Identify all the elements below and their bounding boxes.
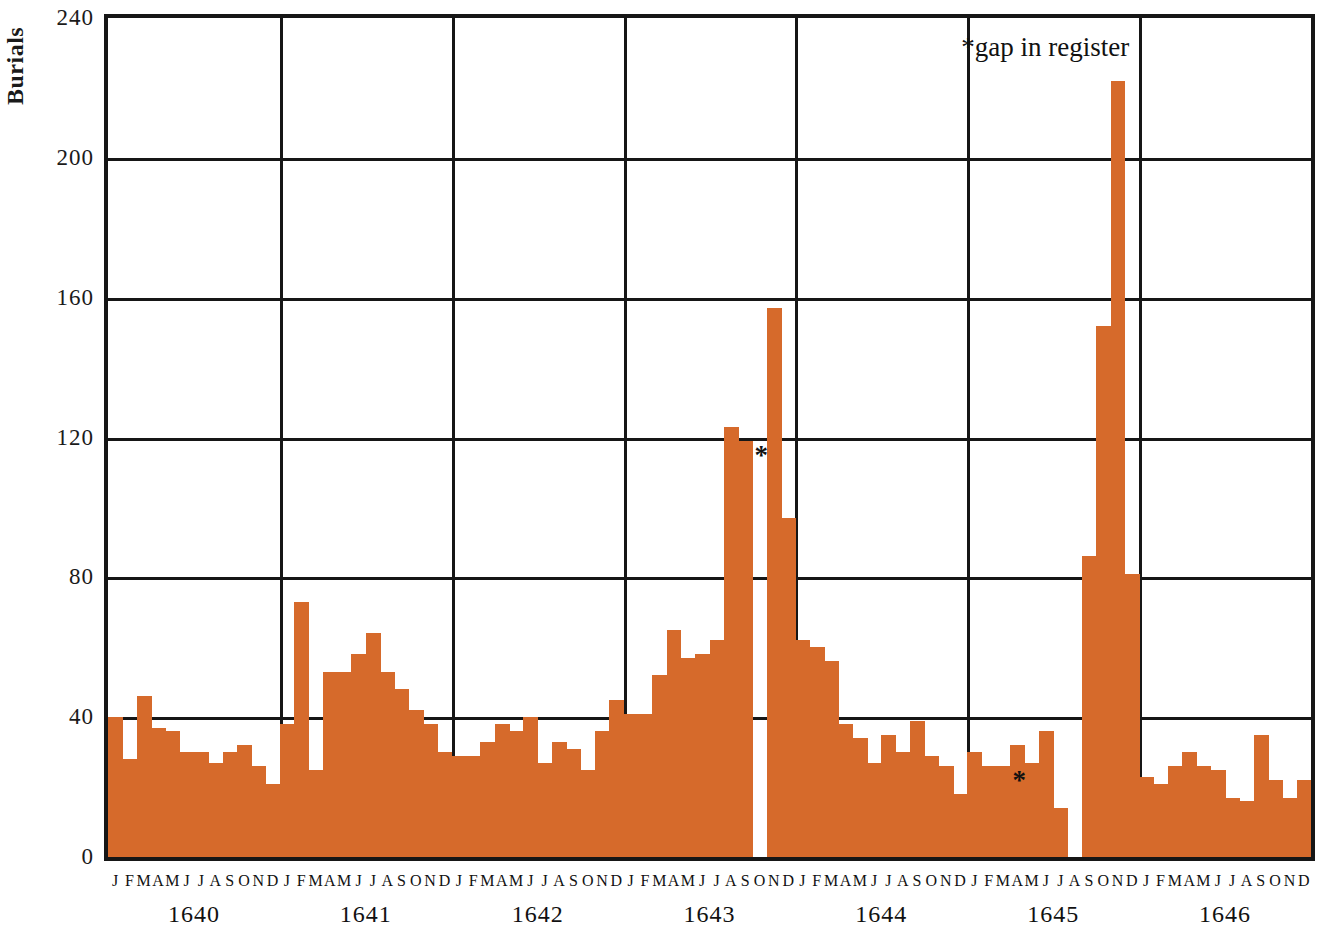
bar xyxy=(480,742,495,857)
bar xyxy=(1010,745,1025,857)
bar xyxy=(452,756,467,857)
bar xyxy=(423,724,438,857)
bar xyxy=(108,717,123,857)
bar xyxy=(1053,808,1068,857)
bar xyxy=(1268,780,1283,857)
year-tick-label: 1645 xyxy=(993,901,1113,928)
bar xyxy=(695,654,710,857)
bar xyxy=(194,752,209,857)
bar xyxy=(1254,735,1269,857)
bar xyxy=(509,731,524,857)
gap-marker-asterisk: * xyxy=(1012,767,1026,794)
bar xyxy=(380,672,395,857)
x-axis-year-labels: 1640164116421643164416451646 xyxy=(104,901,1315,929)
year-tick-label: 1641 xyxy=(306,901,426,928)
bar xyxy=(881,735,896,857)
bar xyxy=(566,749,581,857)
bar xyxy=(710,640,725,857)
year-tick-label: 1646 xyxy=(1165,901,1285,928)
bar xyxy=(294,602,309,857)
bar xyxy=(137,696,152,857)
y-axis-tick-label: 160 xyxy=(10,285,94,311)
bar xyxy=(652,675,667,857)
bar xyxy=(538,763,553,857)
bar xyxy=(1139,777,1154,857)
bar xyxy=(953,794,968,857)
gridline-horizontal xyxy=(108,438,1311,441)
bar xyxy=(351,654,366,857)
bar xyxy=(810,647,825,857)
bar xyxy=(394,689,409,857)
bar xyxy=(180,752,195,857)
bar xyxy=(523,717,538,857)
month-tick-label: D xyxy=(1295,872,1313,890)
bar xyxy=(409,710,424,857)
y-axis-tick-label: 40 xyxy=(10,704,94,730)
gridline-horizontal xyxy=(108,158,1311,161)
bar xyxy=(681,658,696,857)
bar xyxy=(1211,770,1226,857)
y-axis-tick-label: 200 xyxy=(10,145,94,171)
bar xyxy=(795,640,810,857)
gap-in-register-note: *gap in register xyxy=(961,32,1129,63)
bar xyxy=(1153,784,1168,857)
bar xyxy=(323,672,338,857)
bar xyxy=(495,724,510,857)
bar xyxy=(1196,766,1211,857)
bar xyxy=(309,770,324,857)
bar xyxy=(667,630,682,857)
bar xyxy=(824,661,839,857)
bar xyxy=(939,766,954,857)
bar xyxy=(924,756,939,857)
bar xyxy=(767,308,782,857)
bar xyxy=(266,784,281,857)
bar xyxy=(1182,752,1197,857)
bar xyxy=(609,700,624,857)
bar xyxy=(122,759,137,857)
y-axis-tick-label: 0 xyxy=(10,844,94,870)
bar xyxy=(165,731,180,857)
bar xyxy=(208,763,223,857)
bar xyxy=(223,752,238,857)
bar xyxy=(867,763,882,857)
gridline-horizontal xyxy=(108,298,1311,301)
bar xyxy=(996,766,1011,857)
bar xyxy=(1111,81,1126,857)
bar xyxy=(237,745,252,857)
bar xyxy=(337,672,352,857)
bar xyxy=(251,766,266,857)
bar xyxy=(1082,556,1097,857)
bar xyxy=(638,714,653,857)
bar xyxy=(982,766,997,857)
bar xyxy=(1282,798,1297,857)
bar xyxy=(853,738,868,857)
y-axis-tick-label: 240 xyxy=(10,5,94,31)
gridline-vertical-year-divider xyxy=(452,18,455,857)
bar xyxy=(838,724,853,857)
bar xyxy=(581,770,596,857)
bar xyxy=(280,724,295,857)
year-tick-label: 1640 xyxy=(134,901,254,928)
y-axis-tick-label: 120 xyxy=(10,425,94,451)
bar xyxy=(1096,326,1111,857)
bar xyxy=(552,742,567,857)
x-axis-month-labels: JFMAMJJASONDJFMAMJJASONDJFMAMJJASONDJFMA… xyxy=(104,872,1315,898)
bar xyxy=(738,441,753,857)
bar xyxy=(1239,801,1254,857)
bar xyxy=(896,752,911,857)
bar xyxy=(1125,574,1140,857)
bar xyxy=(1025,763,1040,857)
gap-marker-asterisk: * xyxy=(755,441,769,468)
year-tick-label: 1642 xyxy=(478,901,598,928)
year-tick-label: 1643 xyxy=(650,901,770,928)
bar xyxy=(366,633,381,857)
bar xyxy=(151,728,166,857)
bar xyxy=(724,427,739,857)
bar xyxy=(624,714,639,857)
bar xyxy=(437,752,452,857)
bar xyxy=(1039,731,1054,857)
chart-plot-area: ** xyxy=(104,14,1315,861)
bar xyxy=(466,756,481,857)
bar xyxy=(595,731,610,857)
bar xyxy=(781,518,796,857)
